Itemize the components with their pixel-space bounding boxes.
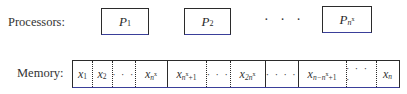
processor-box-1: P1: [101, 8, 149, 35]
memory-cell: x2: [92, 61, 112, 87]
memory-label: Memory:: [17, 66, 64, 81]
processor-box-last: Pnx: [322, 6, 372, 33]
memory-array: x1 x2 · · · xnx xnx+1 · · · x2nx · · · ·…: [72, 60, 400, 88]
processors-label: Processors:: [8, 15, 65, 30]
memory-cell-ellipsis: · · · ·: [346, 61, 376, 87]
processor-subscript: 1: [127, 19, 131, 28]
processor-subscript: nx: [347, 16, 354, 27]
memory-cell: x2nx: [230, 61, 265, 87]
memory-cell: xn−nx+1: [298, 61, 346, 87]
processor-box-2: P2: [184, 8, 231, 35]
memory-cell: xn: [376, 61, 399, 87]
memory-cell-ellipsis: · · ·: [206, 61, 230, 87]
memory-block-ellipsis: · · · ·: [265, 61, 298, 87]
memory-cell: xnx+1: [167, 61, 206, 87]
processor-symbol: P: [202, 14, 210, 30]
processor-symbol: P: [119, 14, 127, 30]
memory-cell: xnx: [135, 61, 167, 87]
memory-cell-ellipsis: · · ·: [112, 61, 135, 87]
memory-cell: x1: [73, 61, 92, 87]
processor-symbol: P: [340, 12, 348, 28]
processors-ellipsis: · · ·: [264, 12, 305, 28]
processor-subscript: 2: [209, 19, 213, 28]
